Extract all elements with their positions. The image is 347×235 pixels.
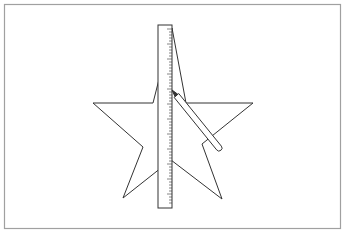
star-ruler-drawing — [0, 0, 347, 235]
pencil-body — [174, 94, 222, 151]
pencil — [172, 90, 222, 151]
diagram-canvas — [0, 0, 347, 235]
ruler — [158, 25, 172, 208]
ruler-body — [158, 25, 172, 208]
star-outline — [93, 28, 253, 199]
pencil-tip — [172, 90, 178, 97]
